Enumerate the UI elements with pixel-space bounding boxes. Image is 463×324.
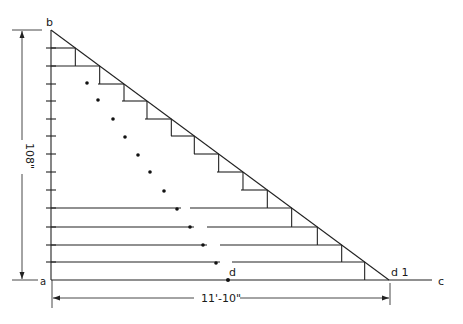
arrowhead-down-icon — [20, 272, 25, 279]
run-dimension-label: 11'-10" — [201, 292, 241, 305]
layout-dot — [85, 81, 89, 85]
layout-dot — [214, 261, 218, 265]
arrowhead-up-icon — [20, 31, 25, 38]
stair-layout-diagram: b a d d 1 c 108" 11'-10" — [0, 0, 463, 324]
layout-dot — [201, 243, 205, 247]
arrowhead-right-icon — [382, 296, 389, 301]
label-d1: d 1 — [391, 266, 408, 279]
dimension-lines — [12, 30, 390, 308]
arrowhead-left-icon — [53, 296, 60, 301]
diagonal-dots — [85, 81, 230, 282]
label-c: c — [438, 275, 444, 288]
layout-dot — [111, 117, 115, 121]
layout-dot — [96, 98, 100, 102]
layout-dot — [175, 207, 179, 211]
height-dimension-label: 108" — [23, 143, 36, 169]
stair-steps — [51, 48, 365, 280]
label-b: b — [46, 16, 53, 29]
triangle-frame — [51, 30, 432, 280]
layout-dot — [123, 135, 127, 139]
layout-dot — [188, 225, 192, 229]
layout-dot — [136, 153, 140, 157]
layout-dot — [148, 170, 152, 174]
label-a: a — [40, 276, 46, 287]
hypotenuse-bd1 — [51, 30, 389, 280]
layout-dot — [162, 189, 166, 193]
label-d: d — [229, 266, 236, 279]
